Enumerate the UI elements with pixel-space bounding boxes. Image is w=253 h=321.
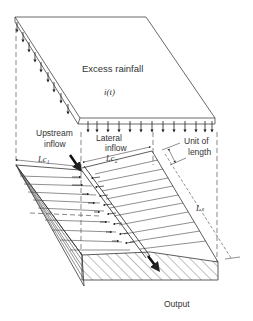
side-layers — [17, 167, 83, 278]
lateral-inflow-label-1: Lateral — [96, 134, 122, 143]
rainfall-function-label: i(t) — [104, 88, 115, 97]
lateral-inflow-label-2: inflow — [105, 144, 127, 153]
unit-of-length-label-1: Unit of — [184, 137, 209, 146]
channel — [80, 166, 150, 258]
lc2-label: Lc₂ — [106, 154, 117, 163]
upstream-inflow-label-1: Upstream — [36, 129, 73, 138]
unit-of-length-label-2: length — [188, 148, 211, 157]
output-label: Output — [164, 300, 190, 309]
flow-lines-right — [95, 160, 206, 249]
ls-label: Lₛ — [196, 204, 204, 213]
lc1-label: Lc₁ — [38, 155, 49, 164]
upstream-inflow-label-2: inflow — [44, 140, 66, 149]
rain-arrows-front — [88, 121, 212, 131]
excess-rainfall-label: Excess rainfall — [82, 64, 143, 73]
